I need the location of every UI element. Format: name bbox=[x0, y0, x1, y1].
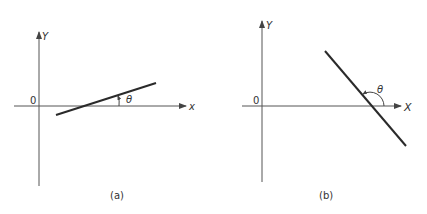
angle-arc bbox=[118, 96, 119, 106]
inclined-line bbox=[56, 83, 156, 115]
x-axis-label: X bbox=[403, 101, 412, 114]
panel-caption: (a) bbox=[110, 190, 124, 201]
theta-label: θ bbox=[126, 94, 132, 105]
origin-label: 0 bbox=[30, 95, 36, 106]
inclination-diagram: 0 Y x θ (a) 0 Y X θ (b) bbox=[0, 0, 427, 214]
panel-a: 0 Y x θ (a) bbox=[14, 31, 195, 201]
panel-b: 0 Y X θ (b) bbox=[242, 20, 412, 201]
y-axis-label: Y bbox=[42, 31, 49, 42]
inclined-line bbox=[325, 51, 406, 146]
x-axis-label: x bbox=[188, 101, 195, 112]
origin-label: 0 bbox=[253, 95, 259, 106]
panel-caption: (b) bbox=[319, 190, 333, 201]
y-axis-label: Y bbox=[266, 20, 273, 31]
theta-label: θ bbox=[377, 84, 383, 95]
